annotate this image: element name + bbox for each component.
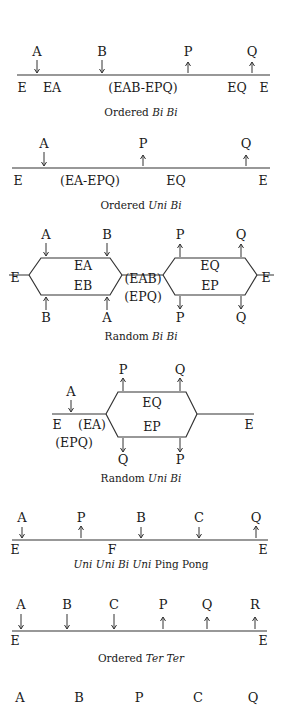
diagram-caption: Random Bi Bi [104, 330, 177, 342]
arrow-down-icon [112, 614, 117, 629]
enzyme-species-label: E [10, 633, 19, 648]
enzyme-species-label: EB [74, 278, 92, 293]
enzyme-species-label: E [244, 417, 253, 432]
substrate-label: A [65, 384, 76, 399]
substrate-label: B [136, 510, 146, 525]
diagram-random-uni-bi: AE(EA)(EPQ)EEQEPPQQPRandom Uni Bi [52, 362, 254, 484]
enzyme-species-label: E [13, 173, 22, 188]
substrate-label: C [109, 597, 119, 612]
reactant-label: P [176, 310, 185, 325]
arrow-up-icon [244, 155, 249, 166]
enzyme-species-label: EA [74, 258, 93, 273]
arrow-up-icon [121, 378, 126, 391]
product-label: Q [202, 597, 213, 612]
arrow-down-icon [178, 296, 183, 309]
arrow-up-icon [254, 526, 259, 538]
arrow-up-icon [239, 244, 244, 257]
product-label: R [250, 597, 261, 612]
diagram-caption: Ordered Bi Bi [104, 106, 177, 118]
arrow-up-icon [253, 617, 258, 629]
product-label: P [77, 510, 86, 525]
ternary-complex-label: (EAB) [124, 271, 161, 286]
diagram-ordered-uni-bi: APQE(EA-EPQ)EQEOrdered Uni Bi [12, 136, 270, 211]
enzyme-species-label: E [10, 270, 19, 285]
substrate-label: C [194, 510, 204, 525]
arrow-up-icon [178, 244, 183, 257]
diagram-caption: Ordered Uni Bi [100, 199, 181, 211]
product-label: Q [175, 362, 186, 377]
substrate-label: A [15, 597, 26, 612]
product-label: Q [247, 44, 258, 59]
substrate-label: A [16, 510, 27, 525]
diagram-caption: Ordered Ter Ter [98, 652, 185, 664]
reactant-label: P [176, 227, 185, 242]
enzyme-species-label: EP [143, 419, 161, 434]
reactant-label: C [193, 690, 203, 705]
arrow-up-icon [79, 526, 84, 538]
arrow-down-icon [178, 438, 183, 452]
enzyme-species-label: EQ [200, 258, 219, 273]
reactant-label: A [101, 310, 112, 325]
arrow-down-icon [197, 527, 202, 538]
arrow-up-icon [205, 617, 210, 629]
diagram-ordered-ter-ter: ABCPQREEOrdered Ter Ter [10, 597, 267, 664]
reactant-label: Q [236, 227, 247, 242]
reactant-label: B [74, 690, 84, 705]
product-label: Q [251, 510, 262, 525]
enzyme-species-label: EQ [142, 395, 161, 410]
arrow-up-icon [186, 62, 191, 73]
arrow-down-icon [105, 243, 110, 256]
enzyme-mechanism-diagrams: ABPQEEA(EAB-EPQ)EQEOrdered Bi BiAPQE(EA-… [0, 0, 282, 707]
enzyme-species-label: E [259, 80, 268, 95]
arrow-down-icon [44, 243, 49, 256]
arrow-up-icon [161, 617, 166, 629]
enzyme-species-label: E [258, 633, 267, 648]
reactant-label: P [135, 690, 144, 705]
enzyme-species-label: E [258, 173, 267, 188]
product-label: P [139, 136, 148, 151]
enzyme-species-label: EA [43, 80, 62, 95]
substrate-label: B [97, 44, 107, 59]
arrow-down-icon [20, 527, 25, 538]
arrow-down-icon [19, 614, 24, 629]
product-label: P [159, 597, 168, 612]
arrow-down-icon [35, 60, 40, 73]
reactant-label: B [41, 310, 51, 325]
diagram-ping-pong: APBCQEFEUni Uni Bi Uni Ping Pong [10, 510, 268, 570]
reactant-label: A [14, 690, 25, 705]
diagram-ordered-bi-bi: ABPQEEA(EAB-EPQ)EQEOrdered Bi Bi [17, 44, 270, 118]
arrow-up-icon [178, 378, 183, 391]
diagram-caption: Uni Uni Bi Uni Ping Pong [73, 558, 208, 570]
enzyme-species-label: F [108, 542, 117, 557]
arrow-up-icon [44, 297, 49, 310]
arrow-down-icon [239, 296, 244, 309]
diagram-caption: Random Uni Bi [101, 472, 182, 484]
product-label: Q [241, 136, 252, 151]
enzyme-species-label: E [10, 542, 19, 557]
reactant-label: Q [236, 310, 247, 325]
reactant-label: Q [248, 690, 259, 705]
enzyme-species-label: (EPQ) [55, 435, 93, 450]
ternary-complex-label: (EPQ) [124, 289, 162, 304]
enzyme-species-label: E [261, 270, 270, 285]
enzyme-species-label: (EA) [78, 417, 106, 432]
enzyme-species-label: EP [201, 278, 219, 293]
arrow-down-icon [100, 60, 105, 73]
enzyme-species-label: E [17, 80, 26, 95]
arrow-up-icon [105, 297, 110, 310]
arrow-down-icon [42, 152, 47, 166]
diagram-random-bi-bi: EE(EAB)(EPQ)EAEBEQEPABPQBAPQRandom Bi Bi [9, 227, 274, 342]
arrow-down-icon [139, 527, 144, 538]
arrow-down-icon [65, 614, 70, 629]
arrow-up-icon [141, 155, 146, 166]
reactant-label: B [102, 227, 112, 242]
product-label: P [176, 452, 185, 467]
enzyme-species-label: E [258, 542, 267, 557]
substrate-label: B [62, 597, 72, 612]
diagram-partial-row: ABPCQ [14, 690, 258, 705]
enzyme-species-label: (EAB-EPQ) [108, 80, 177, 95]
product-label: Q [118, 452, 129, 467]
arrow-down-icon [69, 400, 74, 412]
reactant-label: A [40, 227, 51, 242]
product-label: P [119, 362, 128, 377]
